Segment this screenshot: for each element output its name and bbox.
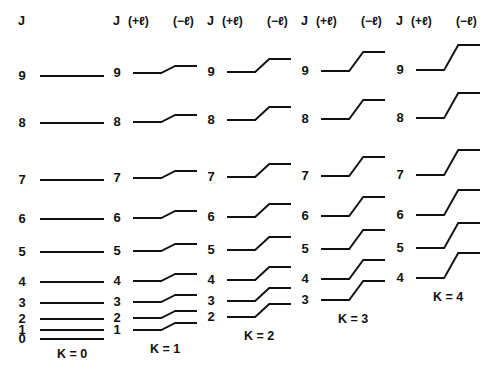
j-value-label: 0 xyxy=(18,331,25,346)
energy-level-split-line xyxy=(133,171,197,178)
j-value-label: 7 xyxy=(113,170,120,185)
energy-level-split-line xyxy=(133,66,197,73)
energy-level-split-line xyxy=(416,253,480,278)
k-label-4: K = 4 xyxy=(433,290,463,304)
j-value-label: 6 xyxy=(301,208,308,223)
j-value-label: 4 xyxy=(113,273,121,288)
j-value-label: 5 xyxy=(18,244,25,259)
header-j-k2: J xyxy=(207,14,214,28)
energy-level-split-line xyxy=(133,274,197,281)
energy-level-split-line xyxy=(227,59,291,72)
energy-level-split-line xyxy=(227,237,291,250)
j-value-label: 8 xyxy=(396,110,403,125)
j-value-label: 3 xyxy=(207,293,214,308)
diagram-canvas: J9876543210K = 0J(+ℓ)(−ℓ)987654321K = 1J… xyxy=(0,0,504,373)
energy-level-split-line xyxy=(321,281,385,300)
j-value-label: 7 xyxy=(396,167,403,182)
j-value-label: 4 xyxy=(396,270,404,285)
energy-level-split-line xyxy=(416,223,480,248)
header-minus-l-k3: (−ℓ) xyxy=(361,14,382,28)
column-k-1: J(+ℓ)(−ℓ)987654321K = 1 xyxy=(113,14,197,356)
j-value-label: 9 xyxy=(113,65,120,80)
energy-level-split-line xyxy=(227,164,291,177)
k-label-3: K = 3 xyxy=(338,312,368,326)
energy-level-diagram: J9876543210K = 0J(+ℓ)(−ℓ)987654321K = 1J… xyxy=(0,0,504,373)
energy-level-split-line xyxy=(133,244,197,251)
j-value-label: 6 xyxy=(18,211,25,226)
energy-level-split-line xyxy=(227,304,291,317)
column-k-2: J(+ℓ)(−ℓ)98765432K = 2 xyxy=(207,14,291,343)
energy-level-split-line xyxy=(321,157,385,176)
energy-level-split-line xyxy=(133,295,197,302)
energy-level-split-line xyxy=(227,107,291,120)
k-label-0: K = 0 xyxy=(57,347,87,361)
header-j-k1: J xyxy=(113,14,120,28)
j-value-label: 3 xyxy=(301,292,308,307)
j-value-label: 8 xyxy=(18,115,25,130)
energy-level-split-line xyxy=(321,100,385,119)
header-minus-l-k4: (−ℓ) xyxy=(456,14,477,28)
header-j-k0: J xyxy=(18,14,25,28)
column-k-3: J(+ℓ)(−ℓ)9876543K = 3 xyxy=(301,14,385,326)
j-value-label: 5 xyxy=(301,241,308,256)
column-k-4: J(+ℓ)(−ℓ)987654K = 4 xyxy=(396,14,480,304)
energy-level-split-line xyxy=(133,311,197,318)
energy-level-split-line xyxy=(416,190,480,215)
header-plus-l-k1: (+ℓ) xyxy=(128,14,149,28)
j-value-label: 6 xyxy=(396,207,403,222)
energy-level-split-line xyxy=(321,260,385,279)
energy-level-split-line xyxy=(321,52,385,71)
header-minus-l-k2: (−ℓ) xyxy=(267,14,288,28)
energy-level-split-line xyxy=(416,45,480,70)
k-label-1: K = 1 xyxy=(150,342,180,356)
j-value-label: 4 xyxy=(207,272,215,287)
energy-level-split-line xyxy=(416,150,480,175)
j-value-label: 3 xyxy=(113,294,120,309)
header-plus-l-k4: (+ℓ) xyxy=(411,14,432,28)
j-value-label: 5 xyxy=(207,242,214,257)
energy-level-split-line xyxy=(227,288,291,301)
energy-level-split-line xyxy=(416,93,480,118)
header-plus-l-k2: (+ℓ) xyxy=(222,14,243,28)
header-plus-l-k3: (+ℓ) xyxy=(316,14,337,28)
header-j-k4: J xyxy=(396,14,403,28)
j-value-label: 1 xyxy=(113,322,120,337)
energy-level-split-line xyxy=(133,211,197,218)
energy-level-split-line xyxy=(227,204,291,217)
j-value-label: 2 xyxy=(207,309,214,324)
j-value-label: 9 xyxy=(207,64,214,79)
j-value-label: 8 xyxy=(207,112,214,127)
j-value-label: 9 xyxy=(301,63,308,78)
j-value-label: 7 xyxy=(207,169,214,184)
j-value-label: 4 xyxy=(301,271,309,286)
j-value-label: 5 xyxy=(396,240,403,255)
column-k-0: J9876543210K = 0 xyxy=(18,14,104,361)
j-value-label: 7 xyxy=(18,172,25,187)
j-value-label: 8 xyxy=(113,114,120,129)
j-value-label: 9 xyxy=(18,68,25,83)
j-value-label: 4 xyxy=(18,274,26,289)
header-minus-l-k1: (−ℓ) xyxy=(173,14,194,28)
j-value-label: 9 xyxy=(396,62,403,77)
energy-level-split-line xyxy=(227,267,291,280)
j-value-label: 5 xyxy=(113,243,120,258)
energy-level-split-line xyxy=(133,323,197,330)
energy-level-split-line xyxy=(321,197,385,216)
header-j-k3: J xyxy=(301,14,308,28)
j-value-label: 8 xyxy=(301,111,308,126)
energy-level-split-line xyxy=(133,115,197,122)
j-value-label: 6 xyxy=(113,210,120,225)
energy-level-split-line xyxy=(321,230,385,249)
k-label-2: K = 2 xyxy=(244,329,274,343)
j-value-label: 6 xyxy=(207,209,214,224)
j-value-label: 7 xyxy=(301,168,308,183)
j-value-label: 3 xyxy=(18,295,25,310)
